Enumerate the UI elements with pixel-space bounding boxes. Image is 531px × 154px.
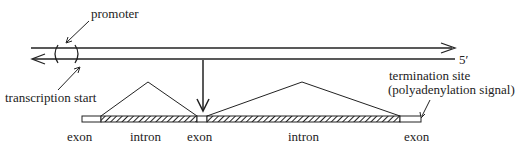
termination-site-label: termination site bbox=[389, 68, 470, 83]
segment-label-intron-2: intron bbox=[288, 129, 320, 144]
intron-1-block bbox=[101, 116, 197, 122]
polyadenylation-signal-label: (polyadenylation signal) bbox=[388, 82, 515, 97]
exon-2-block bbox=[197, 116, 207, 122]
gene-diagram: promoter transcription start 5′ terminat… bbox=[0, 0, 531, 154]
transcription-start-pointer-icon bbox=[58, 68, 79, 90]
dna-double-strand bbox=[31, 43, 455, 64]
promoter-label: promoter bbox=[91, 6, 139, 21]
segment-label-exon-2: exon bbox=[187, 129, 213, 144]
splice-triangle-intron-1 bbox=[101, 82, 197, 116]
segment-label-exon-1: exon bbox=[67, 129, 93, 144]
exon-3-block bbox=[400, 116, 421, 122]
exon-1-block bbox=[82, 116, 101, 122]
segment-label-exon-3: exon bbox=[404, 129, 430, 144]
segment-label-intron-1: intron bbox=[130, 129, 162, 144]
splice-triangle-intron-2 bbox=[207, 82, 400, 116]
intron-2-block bbox=[207, 116, 400, 122]
transcription-start-label: transcription start bbox=[5, 90, 97, 105]
gene-bar bbox=[82, 116, 421, 122]
termination-pointer-icon bbox=[422, 100, 430, 116]
five-prime-label: 5′ bbox=[459, 52, 469, 67]
promoter-pointer-icon bbox=[67, 21, 89, 42]
